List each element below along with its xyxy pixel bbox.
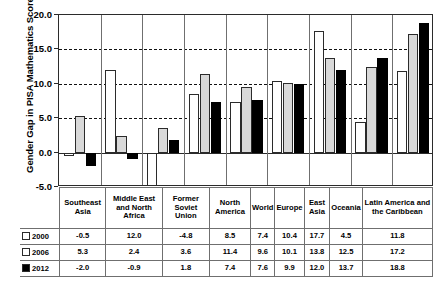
table-row: 2012-2.0-0.91.87.47.69.912.013.718.8 [20, 261, 433, 277]
bar-2000-middle-east-and-north-africa [105, 70, 116, 153]
bar-2000-europe [272, 81, 283, 153]
black-square-icon [22, 264, 30, 272]
table-cell: 12.5 [330, 245, 363, 261]
table-cell: 12.0 [304, 261, 330, 277]
bar-2006-southeast-asia [75, 116, 86, 152]
table-column-header: Oceania [330, 188, 363, 229]
table-cell: 3.6 [162, 245, 209, 261]
table-column-header: Europe [275, 188, 304, 229]
table-column-header: Middle East and North Africa [106, 188, 162, 229]
bar-2000-latin-america-and-the-caribbean [397, 71, 408, 152]
legend-item-2006: 2006 [20, 245, 60, 261]
data-table: Southeast AsiaMiddle East and North Afri… [20, 187, 433, 277]
table-cell: 17.7 [304, 229, 330, 245]
table-column-header: Southeast Asia [60, 188, 106, 229]
table-cell: 2.4 [106, 245, 162, 261]
chart-figure: Gender Gap in PISA Mathematics Scores -5… [0, 0, 441, 281]
bar-2000-former-soviet-union [147, 153, 158, 186]
legend-label: 2006 [32, 248, 49, 257]
table-cell: 8.5 [209, 229, 250, 245]
white-square-icon [22, 248, 30, 256]
bar-2012-europe [294, 84, 305, 152]
table-body: 2000-0.512.0-4.88.57.410.417.74.511.8200… [20, 229, 433, 277]
y-axis-tick-label: 15.0 [0, 43, 52, 54]
bar-2006-oceania [366, 67, 377, 153]
bar-2012-east-asia [336, 70, 347, 153]
bar-2006-world [241, 87, 252, 153]
table-cell: 12.0 [106, 229, 162, 245]
table-cell: 5.3 [60, 245, 106, 261]
table-cell: 11.4 [209, 245, 250, 261]
table-cell: 18.8 [362, 261, 432, 277]
y-axis-tick-label: 10.0 [0, 77, 52, 88]
bar-2012-middle-east-and-north-africa [127, 153, 138, 159]
bar-2006-former-soviet-union [158, 128, 169, 153]
table-column-header: Former Soviet Union [162, 188, 209, 229]
bar-2000-north-america [189, 94, 200, 152]
bar-2006-north-america [200, 74, 211, 152]
legend-item-2012: 2012 [20, 261, 60, 277]
table-column-header: North America [209, 188, 250, 229]
bar-2006-europe [283, 83, 294, 152]
table-cell: 13.8 [304, 245, 330, 261]
table-cell: 9.6 [251, 245, 275, 261]
y-axis-tick-label: 5.0 [0, 112, 52, 123]
table-column-header: East Asia [304, 188, 330, 229]
group-separator [267, 15, 268, 185]
bar-2012-north-america [211, 102, 222, 153]
table-cell: 10.1 [275, 245, 304, 261]
group-separator [351, 15, 352, 185]
y-axis-tick-label: 0.0 [0, 146, 52, 157]
table-row: 20065.32.43.611.49.610.113.812.517.2 [20, 245, 433, 261]
bar-2000-world [230, 102, 241, 153]
plot-area [58, 14, 433, 186]
table-cell: -0.9 [106, 261, 162, 277]
group-separator [226, 15, 227, 185]
bar-2000-oceania [355, 122, 366, 153]
group-separator [184, 15, 185, 185]
y-axis-tick-label: 20.0 [0, 9, 52, 20]
bar-2012-former-soviet-union [169, 140, 180, 152]
legend-label: 2000 [32, 232, 49, 241]
table-column-header: World [251, 188, 275, 229]
table-cell: 9.9 [275, 261, 304, 277]
bar-2006-latin-america-and-the-caribbean [408, 34, 419, 152]
group-separator [309, 15, 310, 185]
bar-2012-latin-america-and-the-caribbean [419, 23, 430, 152]
table-column-header: Latin America and the Caribbean [362, 188, 432, 229]
table-cell: 7.6 [251, 261, 275, 277]
y-axis-tick-labels: -5.00.05.010.015.020.0 [0, 14, 58, 186]
table-cell: 1.8 [162, 261, 209, 277]
table-cell: -2.0 [60, 261, 106, 277]
legend-item-2000: 2000 [20, 229, 60, 245]
bar-2012-world [252, 100, 263, 152]
table-row: 2000-0.512.0-4.88.57.410.417.74.511.8 [20, 229, 433, 245]
bar-2000-southeast-asia [64, 153, 75, 156]
table-cell: -4.8 [162, 229, 209, 245]
group-separator [392, 15, 393, 185]
table-header-row: Southeast AsiaMiddle East and North Afri… [20, 188, 433, 229]
table-corner-cell [20, 188, 60, 229]
gridline [59, 49, 432, 50]
legend-label: 2012 [32, 264, 49, 273]
bar-2012-southeast-asia [86, 153, 97, 167]
table-cell: 7.4 [209, 261, 250, 277]
table-cell: 17.2 [362, 245, 432, 261]
table-cell: 10.4 [275, 229, 304, 245]
bar-2006-east-asia [325, 58, 336, 153]
group-separator [101, 15, 102, 185]
group-separator [142, 15, 143, 185]
table-cell: 13.7 [330, 261, 363, 277]
bar-2000-east-asia [314, 31, 325, 153]
table-cell: 11.8 [362, 229, 432, 245]
table-cell: 7.4 [251, 229, 275, 245]
table-cell: -0.5 [60, 229, 106, 245]
bar-2006-middle-east-and-north-africa [116, 136, 127, 153]
zero-axis-line [59, 153, 432, 154]
bar-2012-oceania [377, 58, 388, 152]
table-cell: 4.5 [330, 229, 363, 245]
white-square-icon [22, 232, 30, 240]
